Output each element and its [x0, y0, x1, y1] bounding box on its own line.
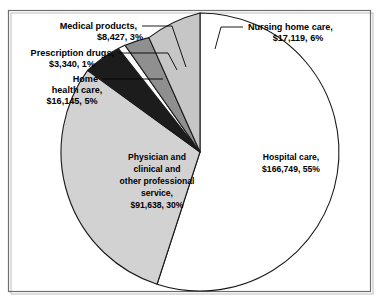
label-medical-products: Medical products, $8,427, 3% [60, 21, 143, 42]
label-medical-products-line2: $8,427, 3% [97, 32, 143, 42]
label-physician-line5: $91,638, 30% [130, 200, 183, 210]
pie-chart-figure: Medical products, $8,427, 3% Prescriptio… [0, 0, 379, 300]
label-nursing-home-care-line1: Nursing home care, [248, 22, 333, 32]
label-home-health-care-line3: $16,145, 5% [46, 96, 97, 106]
label-home-health-care-line2: health care, [52, 85, 103, 95]
label-nursing-home-care-line2: $17,119, 6% [273, 33, 324, 43]
label-physician-line1: Physician and [128, 152, 186, 162]
label-physician-line2: clinical and [134, 164, 181, 174]
label-physician-clinical: Physician and clinical and other profess… [120, 152, 195, 210]
label-physician-line3: other professional [120, 176, 195, 186]
pie-chart-canvas: Medical products, $8,427, 3% Prescriptio… [0, 0, 379, 300]
label-physician-line4: service, [141, 188, 173, 198]
label-prescription-drugs-line1: Prescription drugs, [31, 48, 114, 58]
label-medical-products-line1: Medical products, [60, 21, 137, 31]
label-prescription-drugs-line2: $3,340, 1% [49, 59, 95, 69]
label-home-health-care: Home health care, $16,145, 5% [46, 74, 102, 106]
label-home-health-care-line1: Home [73, 74, 98, 84]
label-hospital-care-line1: Hospital care, [263, 152, 319, 162]
label-hospital-care-line2: $166,749, 55% [262, 164, 320, 174]
